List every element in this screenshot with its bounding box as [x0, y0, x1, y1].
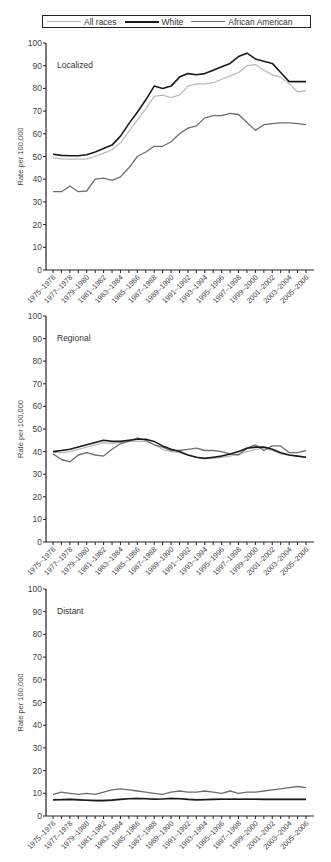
y-tick-label: 40: [33, 720, 43, 730]
y-tick-label: 20: [33, 766, 43, 776]
y-tick-label: 100: [28, 584, 42, 594]
y-tick-label: 70: [33, 652, 43, 662]
chart-panel-distant: 0102030405060708090100Rate per 100,00019…: [0, 0, 331, 862]
y-tick-label: 10: [33, 788, 43, 798]
y-tick-label: 80: [33, 629, 43, 639]
series-line-african-american: [53, 787, 306, 795]
y-tick-label: 50: [33, 698, 43, 708]
y-tick-label: 90: [33, 607, 43, 617]
y-tick-label: 30: [33, 743, 43, 753]
y-axis-label: Rate per 100,000: [16, 674, 25, 732]
y-tick-label: 0: [37, 811, 42, 821]
panel-title: Distant: [57, 606, 84, 616]
y-tick-label: 60: [33, 675, 43, 685]
